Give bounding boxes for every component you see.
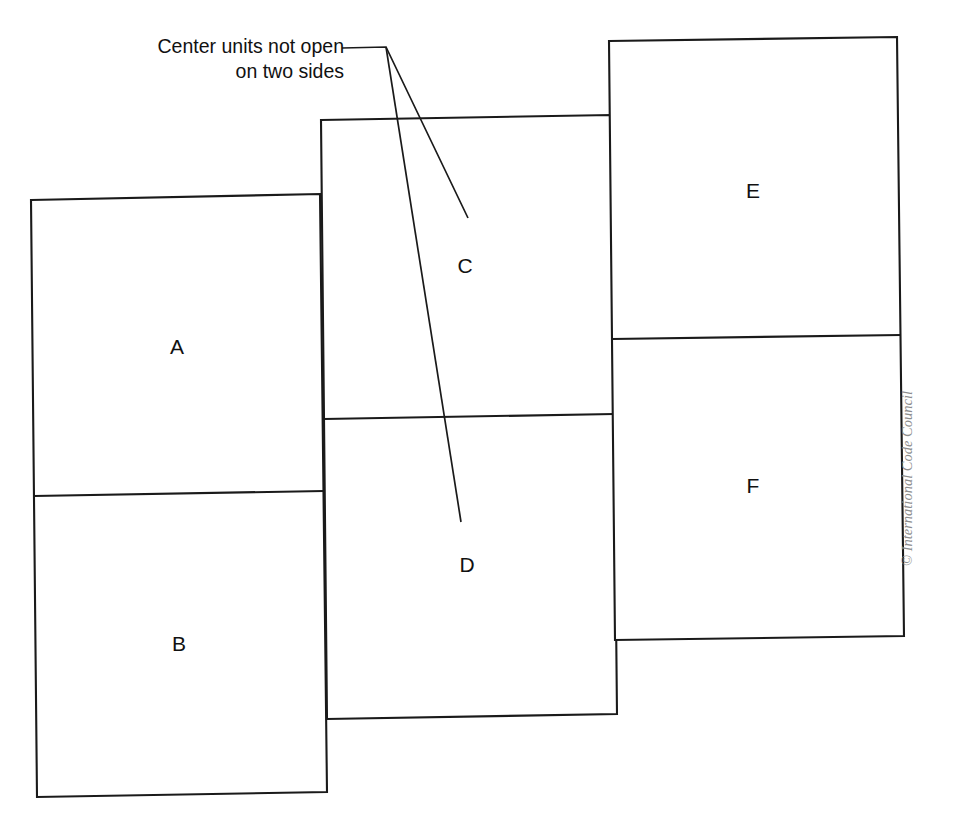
callout-line-2: on two sides	[84, 59, 344, 84]
unit-column-center	[321, 115, 617, 719]
unit-label-d: D	[459, 553, 474, 576]
callout-annotation: Center units not open on two sides	[84, 34, 344, 84]
unit-layout-diagram: A B C D E F Center units not open on two…	[0, 0, 956, 822]
unit-column-right	[609, 37, 904, 640]
diagram-canvas: A B C D E F	[0, 0, 956, 822]
callout-line-1: Center units not open	[84, 34, 344, 59]
unit-label-a: A	[170, 335, 184, 358]
unit-label-b: B	[172, 632, 186, 655]
unit-label-f: F	[747, 474, 760, 497]
copyright-notice: © International Code Council	[899, 391, 916, 566]
unit-label-e: E	[746, 179, 760, 202]
unit-column-left	[31, 194, 327, 797]
unit-label-c: C	[457, 254, 472, 277]
